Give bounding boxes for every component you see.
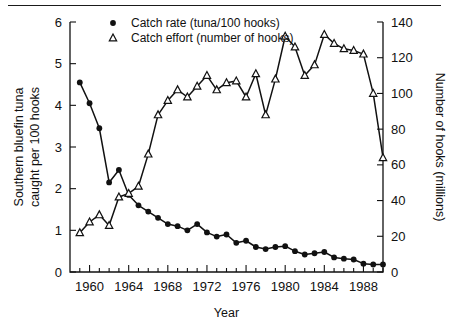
x-tick-label-1964: 1964 [114, 279, 143, 294]
y-tick-label-0: 0 [55, 265, 62, 280]
catch-rate-point-1974 [224, 232, 230, 238]
y2-tick-label-100: 100 [391, 86, 413, 101]
catch-effort-line [80, 35, 383, 233]
legend-marker-catch-rate [110, 20, 116, 26]
y2-tick-label-60: 60 [391, 157, 405, 172]
catch-rate-point-1962 [106, 180, 112, 186]
x-tick-label-1968: 1968 [153, 279, 182, 294]
y-tick-label-1: 1 [55, 223, 62, 238]
catch-rate-point-1973 [214, 234, 220, 240]
catch-rate-point-1989 [370, 262, 376, 268]
y-tick-label-5: 5 [55, 56, 62, 71]
catch-rate-point-1985 [331, 255, 337, 261]
y-axis-title: Southern bluefin tunacaught per 100 hook… [12, 87, 42, 207]
catch-effort-point-1989 [370, 89, 377, 96]
catch-rate-point-1975 [233, 240, 239, 246]
x-tick-label-1988: 1988 [349, 279, 378, 294]
legend-marker-catch-effort [109, 34, 116, 41]
catch-effort-point-1972 [203, 72, 210, 79]
catch-rate-point-1983 [312, 250, 318, 256]
catch-rate-point-1981 [292, 248, 298, 254]
catch-rate-point-1972 [204, 230, 210, 236]
catch-rate-point-1986 [341, 256, 347, 262]
catch-rate-point-1984 [321, 249, 327, 255]
y2-tick-label-40: 40 [391, 193, 405, 208]
catch-rate-point-1967 [155, 215, 161, 221]
catch-rate-point-1978 [263, 246, 269, 252]
catch-rate-point-1961 [96, 125, 102, 131]
catch-effort-point-1990 [379, 154, 386, 161]
catch-effort-point-1979 [272, 75, 279, 82]
catch-rate-point-1968 [165, 221, 171, 227]
y2-tick-label-20: 20 [391, 229, 405, 244]
x-tick-label-1984: 1984 [310, 279, 339, 294]
y-tick-label-4: 4 [55, 98, 62, 113]
catch-rate-line [80, 82, 383, 264]
x-axis-title: Year [214, 306, 239, 320]
catch-rate-point-1960 [87, 100, 93, 106]
y2-tick-label-0: 0 [391, 265, 398, 280]
catch-effort-point-1964 [125, 189, 132, 196]
top-divider-rule [8, 5, 441, 6]
x-tick-label-1976: 1976 [232, 279, 261, 294]
y-tick-label-6: 6 [55, 15, 62, 30]
catch-effort-point-1966 [145, 150, 152, 157]
y2-tick-label-140: 140 [391, 15, 413, 30]
catch-effort-point-1983 [311, 61, 318, 68]
y2-axis-title: Number of hooks (millions) [433, 73, 447, 222]
catch-effort-point-1975 [233, 77, 240, 84]
y-tick-label-2: 2 [55, 181, 62, 196]
catch-effort-point-1984 [321, 31, 328, 38]
y-tick-label-3: 3 [55, 140, 62, 155]
tuna-catch-chart: 0123456020406080100120140196019641968197… [0, 0, 449, 333]
legend-label-catch-rate: Catch rate (tuna/100 hooks) [131, 16, 280, 30]
catch-rate-point-1979 [273, 244, 279, 250]
catch-rate-point-1965 [136, 202, 142, 208]
catch-rate-point-1987 [351, 257, 357, 263]
catch-rate-point-1970 [184, 227, 190, 233]
x-tick-label-1972: 1972 [192, 279, 221, 294]
catch-rate-point-1959 [77, 80, 83, 86]
x-tick-label-1980: 1980 [271, 279, 300, 294]
catch-rate-point-1971 [194, 221, 200, 227]
y2-tick-label-80: 80 [391, 122, 405, 137]
catch-effort-point-1978 [262, 111, 269, 118]
catch-rate-point-1977 [253, 244, 259, 250]
catch-rate-point-1990 [380, 262, 386, 268]
catch-effort-point-1960 [86, 218, 93, 225]
catch-effort-point-1977 [252, 70, 259, 77]
catch-effort-point-1969 [174, 86, 181, 93]
catch-rate-point-1976 [243, 238, 249, 244]
y-axis-title-line2: caught per 100 hooks [28, 87, 42, 207]
catch-rate-point-1980 [282, 243, 288, 249]
y2-tick-label-120: 120 [391, 50, 413, 65]
catch-rate-point-1963 [116, 167, 122, 173]
catch-effort-point-1961 [96, 211, 103, 218]
catch-rate-point-1969 [175, 223, 181, 229]
catch-rate-point-1982 [302, 252, 308, 258]
figure-container: 0123456020406080100120140196019641968197… [0, 0, 449, 333]
catch-rate-point-1988 [361, 261, 367, 267]
y2-axis-title-text: Number of hooks (millions) [433, 73, 447, 222]
catch-effort-point-1965 [135, 182, 142, 189]
legend-label-catch-effort: Catch effort (number of hooks) [131, 31, 294, 45]
y-axis-title-line1: Southern bluefin tuna [12, 88, 26, 207]
x-tick-label-1960: 1960 [75, 279, 104, 294]
catch-rate-point-1966 [145, 209, 151, 215]
